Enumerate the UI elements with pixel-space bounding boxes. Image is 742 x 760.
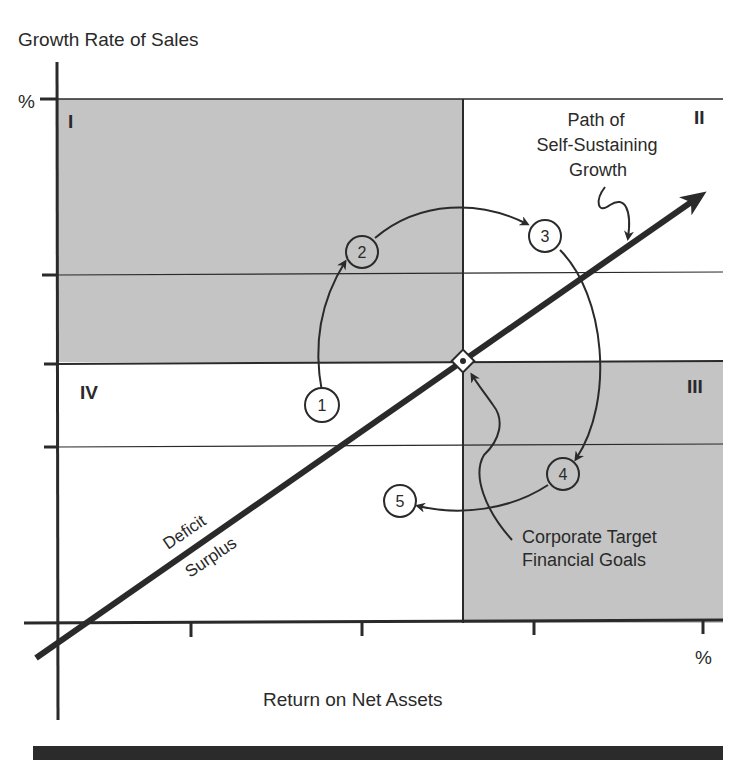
step-5: 5 bbox=[384, 485, 416, 517]
growth-quadrant-diagram: Growth Rate of Sales % % Return on Net A… bbox=[0, 0, 742, 760]
svg-text:5: 5 bbox=[396, 493, 405, 510]
svg-text:2: 2 bbox=[358, 244, 367, 261]
path-label-line1: Path of bbox=[567, 110, 625, 130]
quadrant-4-label: IV bbox=[80, 382, 98, 403]
y-axis-title: Growth Rate of Sales bbox=[18, 29, 199, 50]
bottom-bar bbox=[33, 746, 723, 760]
quadrant-2-label: II bbox=[694, 107, 705, 128]
target-label-line2: Financial Goals bbox=[522, 550, 646, 570]
y-percent-label: % bbox=[18, 91, 35, 112]
quadrant-3-shade bbox=[463, 362, 723, 623]
step-2: 2 bbox=[346, 236, 378, 268]
surplus-label: Surplus bbox=[182, 533, 240, 581]
path-label-line3: Growth bbox=[569, 160, 627, 180]
quadrant-1-shade bbox=[57, 99, 463, 362]
x-percent-label: % bbox=[695, 647, 712, 668]
step-4: 4 bbox=[547, 458, 579, 490]
quadrant-1-label: I bbox=[68, 111, 73, 132]
y-axis bbox=[57, 62, 58, 720]
deficit-label: Deficit bbox=[160, 511, 210, 553]
target-label-line1: Corporate Target bbox=[522, 527, 657, 547]
svg-text:3: 3 bbox=[541, 228, 550, 245]
path-label-pointer bbox=[599, 187, 629, 238]
quadrant-3-label: III bbox=[687, 376, 703, 397]
step-3: 3 bbox=[529, 220, 561, 252]
svg-text:1: 1 bbox=[318, 397, 327, 414]
x-axis-title: Return on Net Assets bbox=[263, 689, 443, 710]
step-1: 1 bbox=[305, 388, 339, 422]
path-label-line2: Self-Sustaining bbox=[536, 135, 657, 155]
svg-text:4: 4 bbox=[559, 466, 568, 483]
